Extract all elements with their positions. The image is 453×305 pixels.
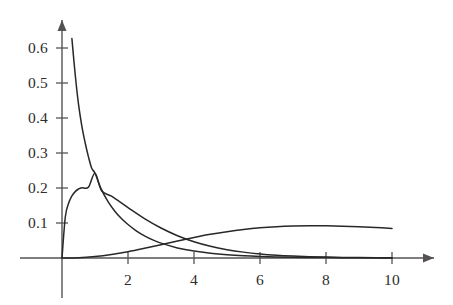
y-tick-label-0.5: 0.5 (6, 75, 48, 91)
data-curves-group (62, 39, 392, 258)
y-axis-arrow-icon (58, 20, 67, 31)
data-curve-3 (62, 226, 392, 258)
x-tick-label-4: 4 (190, 272, 198, 288)
x-tick-label-6: 6 (256, 272, 264, 288)
y-tick-label-0.4: 0.4 (6, 110, 48, 126)
chart-figure: 0.6 0.5 0.4 0.3 0.2 0.1 2 4 6 8 10 (0, 0, 453, 305)
y-tick-label-0.1: 0.1 (6, 215, 48, 231)
data-curve-2 (62, 173, 392, 258)
x-tick-label-8: 8 (322, 272, 330, 288)
y-tick-label-0.2: 0.2 (6, 180, 48, 196)
data-curve-1 (72, 39, 392, 258)
x-tick-label-10: 10 (384, 272, 400, 288)
y-tick-label-0.3: 0.3 (6, 145, 48, 161)
x-tick-label-2: 2 (124, 272, 132, 288)
axes-group (20, 20, 434, 298)
x-axis-arrow-icon (423, 254, 434, 263)
y-tick-label-0.6: 0.6 (6, 40, 48, 56)
plot-canvas (0, 0, 453, 305)
